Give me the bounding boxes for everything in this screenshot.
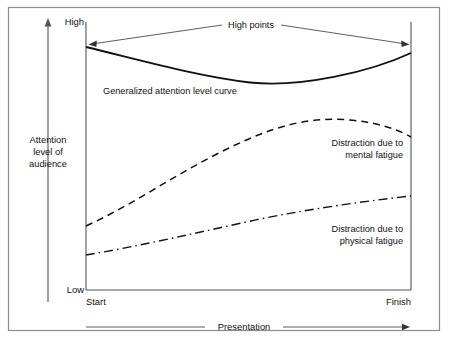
y-axis-low-tick-label: Low [67,284,84,295]
x-axis-start-tick-label: Start [86,296,106,307]
mental-fatigue-annotation-line-2: mental fatigue [345,150,403,160]
mental-fatigue-curve [86,119,411,226]
y-axis-label-line-1: Attention [29,134,66,145]
generalized-curve-annotation: Generalized attention level curve [103,86,237,96]
high-points-annotation: High points [228,20,274,30]
y-axis-label: Attention level of audience [29,134,67,169]
physical-fatigue-annotation-line-2: physical fatigue [340,236,403,246]
y-axis-label-line-2: level of [33,146,63,157]
physical-fatigue-annotation-line-1: Distraction due to [332,224,404,234]
physical-fatigue-annotation: Distraction due to physical fatigue [332,224,404,246]
mental-fatigue-annotation-line-1: Distraction due to [332,138,404,148]
x-axis-label: Presentation [218,321,271,332]
attention-diagram-svg: High Low Start Finish Presentation Atten… [0,0,449,341]
x-axis-finish-tick-label: Finish [386,296,411,307]
mental-fatigue-annotation: Distraction due to mental fatigue [332,138,404,160]
generalized-attention-curve [86,47,411,84]
figure-border [9,8,440,331]
y-axis-label-line-3: audience [29,158,67,169]
y-axis-high-tick-label: High [65,16,84,27]
figure-container: High Low Start Finish Presentation Atten… [0,0,449,341]
